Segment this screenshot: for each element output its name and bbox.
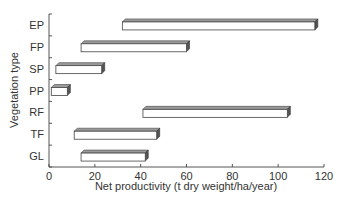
y-tick-label: EP: [29, 19, 44, 31]
bars: [51, 19, 318, 161]
bar-sp: [56, 63, 105, 74]
x-tick-label: 0: [46, 170, 52, 182]
bar-rf: [143, 106, 290, 117]
x-tick-label: 120: [315, 170, 333, 182]
y-tick-label: RF: [29, 106, 44, 118]
bar-tf: [74, 128, 159, 139]
x-axis-title: Net productivity (t dry weight/ha/year): [95, 180, 277, 192]
y-axis-title: Vegetation type: [8, 52, 20, 128]
bar-ep: [122, 19, 318, 30]
bar-pp: [51, 85, 70, 96]
bar-fp: [81, 41, 189, 52]
y-tick-label: FP: [30, 41, 44, 53]
y-tick-label: GL: [29, 150, 44, 162]
range-bar-chart: 020406080100120EPFPSPPPRFTFGL Net produc…: [0, 0, 345, 207]
axes: 020406080100120EPFPSPPPRFTFGL: [29, 14, 333, 182]
y-tick-label: TF: [31, 128, 45, 140]
bar-gl: [81, 150, 148, 161]
y-tick-label: PP: [29, 85, 44, 97]
y-tick-label: SP: [29, 63, 44, 75]
